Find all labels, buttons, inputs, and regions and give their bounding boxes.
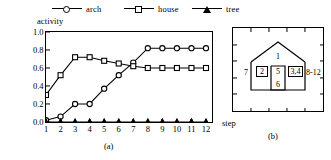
x-tick-label: 11	[187, 125, 195, 134]
activity-line-chart: 0.00.20.40.60.81.0123456789101112	[45, 31, 213, 123]
y-tick-label: 0.2	[33, 100, 44, 109]
panel-b-tick	[233, 77, 237, 78]
door-label: 5	[276, 68, 280, 76]
floor-label: 6	[276, 81, 280, 89]
panel-b-tick	[233, 44, 237, 45]
left-window-box: 2	[256, 66, 268, 77]
legend-label-house: house	[158, 4, 179, 14]
panel-b-tick	[250, 108, 251, 112]
data-point-house	[131, 64, 136, 69]
panel-b-tick	[268, 28, 269, 32]
panel-b-tick	[286, 108, 287, 112]
y-axis-label: activity	[37, 16, 63, 26]
series-house	[46, 55, 209, 98]
data-point-house	[174, 66, 179, 71]
plot-area: 0.00.20.40.60.81.0123456789101112	[46, 32, 212, 122]
series-line-house	[46, 57, 206, 95]
panel-b-caption: (b)	[268, 131, 278, 141]
data-point-house	[58, 73, 63, 78]
circle-marker	[63, 6, 70, 13]
x-tick-label: 2	[58, 125, 62, 134]
panel-b-tick	[304, 28, 305, 32]
panel-b-tick	[320, 94, 324, 95]
data-point-arch	[102, 86, 107, 91]
legend-line-arch	[52, 4, 82, 14]
x-tick-label: 9	[160, 125, 164, 134]
data-point-arch	[203, 46, 208, 51]
data-point-arch	[87, 101, 92, 106]
x-tick-label: 6	[117, 125, 121, 134]
square-marker	[135, 6, 142, 13]
house-schematic-panel: 2 3,4 1 5 6 7 8-12	[232, 27, 324, 112]
y-tick-label: 0.4	[33, 82, 44, 91]
x-tick-label: 3	[73, 125, 77, 134]
panel-b-tick	[233, 94, 237, 95]
y-tick-label: 1.0	[33, 28, 44, 37]
triangle-marker	[203, 6, 211, 13]
y-tick-label: 0.6	[33, 64, 44, 73]
panel-b-tick	[268, 108, 269, 112]
data-point-arch	[189, 46, 194, 51]
x-tick-label: 12	[202, 125, 211, 134]
right-outside-label: 8-12	[306, 69, 321, 77]
x-tick-label: 7	[131, 125, 135, 134]
x-tick-label: 4	[88, 125, 92, 134]
data-point-house	[145, 66, 150, 71]
series-line-arch	[46, 48, 206, 120]
chart-legend: archhousetree	[52, 2, 227, 16]
data-point-house	[204, 66, 209, 71]
panel-b-tick	[320, 77, 324, 78]
panel-b-tick	[320, 61, 324, 62]
right-window-box: 3,4	[288, 66, 303, 77]
data-point-arch	[145, 46, 150, 51]
x-tick-label: 5	[102, 125, 106, 134]
roof-label: 1	[276, 53, 280, 61]
data-point-house	[102, 58, 107, 63]
data-point-arch	[160, 46, 165, 51]
legend-item-house: house	[124, 2, 179, 16]
panel-b-tick	[304, 108, 305, 112]
y-tick-label: 0.8	[33, 46, 44, 55]
x-tick-label: 8	[146, 125, 150, 134]
legend-line-house	[124, 4, 154, 14]
x-tick-label: 1	[44, 125, 48, 134]
left-outside-label: 7	[244, 69, 248, 77]
data-point-house	[73, 55, 78, 60]
data-point-house	[116, 61, 121, 66]
data-point-house	[160, 66, 165, 71]
series-arch	[46, 46, 209, 122]
data-point-arch	[174, 46, 179, 51]
legend-label-arch: arch	[86, 4, 101, 14]
legend-item-arch: arch	[52, 2, 101, 16]
legend-line-tree	[192, 4, 222, 14]
legend-item-tree: tree	[192, 2, 240, 16]
data-point-arch	[116, 73, 121, 78]
figure-root: archhousetree activity 0.00.20.40.60.81.…	[0, 0, 331, 160]
legend-label-tree: tree	[226, 4, 240, 14]
panel-b-tick	[286, 28, 287, 32]
panel-b-tick	[320, 44, 324, 45]
panel-a-caption: (a)	[104, 141, 113, 151]
panel-b-tick	[250, 28, 251, 32]
data-point-house	[189, 66, 194, 71]
data-point-arch	[72, 101, 77, 106]
x-axis-label: step	[222, 118, 236, 128]
panel-b-tick	[233, 61, 237, 62]
data-point-house	[46, 93, 49, 98]
data-point-house	[87, 55, 92, 60]
series-tree	[46, 119, 209, 122]
series-canvas	[46, 32, 212, 122]
y-tick-label: 0.0	[33, 118, 44, 127]
x-tick-label: 10	[173, 125, 182, 134]
